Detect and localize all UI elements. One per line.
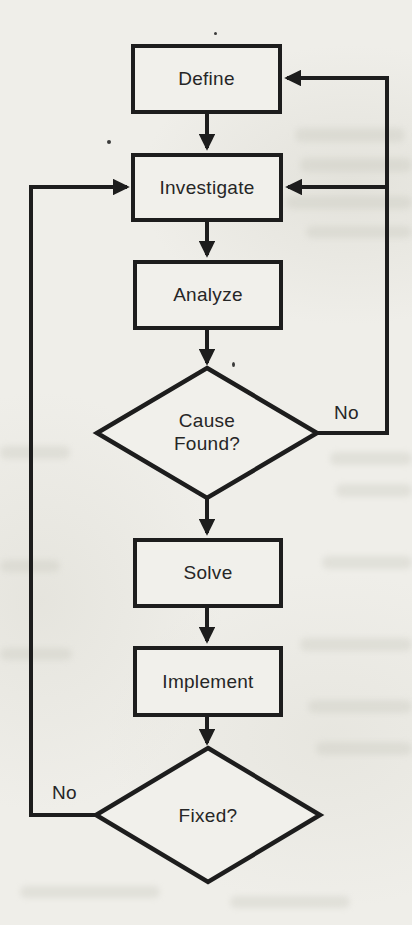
node-analyze: Analyze [133,260,283,330]
node-analyze-label: Analyze [173,284,243,306]
node-cause-found-label: Cause Found? [142,409,272,455]
node-define: Define [131,44,282,114]
node-cause-found-label-line1: Cause [142,409,272,432]
node-investigate-label: Investigate [159,177,254,199]
node-investigate: Investigate [131,153,283,222]
node-solve: Solve [133,538,283,608]
node-implement: Implement [133,646,283,717]
loop-fixed-no-to-investigate [31,187,127,815]
loop-cause-found-no-to-define [287,78,387,433]
node-fixed-label: Fixed? [148,804,268,827]
node-implement-label: Implement [162,671,253,693]
node-cause-found-label-line2: Found? [142,432,272,455]
edge-label-cause-found-no: No [334,402,359,424]
scanned-page: Define Investigate Analyze Solve Impleme… [0,0,412,925]
edge-label-fixed-no: No [52,782,77,804]
node-define-label: Define [178,68,235,90]
node-solve-label: Solve [183,562,232,584]
